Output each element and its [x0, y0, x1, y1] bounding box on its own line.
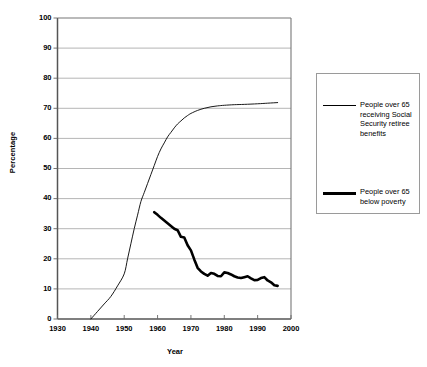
series-line-social-security [91, 103, 278, 319]
legend-label: People over 65 below poverty [360, 187, 424, 206]
legend-label: People over 65 receiving Social Security… [360, 100, 424, 138]
thick-line-swatch [323, 192, 356, 195]
thin-line-swatch [323, 105, 356, 106]
chart-figure: Percentage Year 0 10 20 30 40 50 60 70 8… [0, 0, 427, 367]
series-line-below-poverty [154, 212, 277, 286]
gridlines [58, 48, 292, 289]
legend: People over 65 receiving Social Security… [316, 73, 420, 214]
